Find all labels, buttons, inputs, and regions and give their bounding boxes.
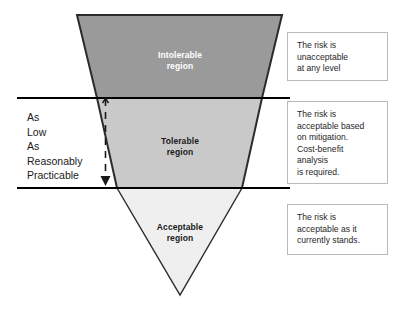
note-line: at any level <box>297 63 387 75</box>
alarp-word-as-1: As <box>27 110 107 125</box>
note-line: unacceptable <box>297 52 387 64</box>
tolerable-region-note: The risk is acceptable based on mitigati… <box>287 101 388 184</box>
note-line: acceptable as it <box>297 224 387 236</box>
note-line: acceptable based <box>297 121 387 133</box>
alarp-word-low: Low <box>27 125 107 140</box>
intolerable-region-label: Intolerable region <box>130 50 230 72</box>
acceptable-region-note: The risk is acceptable as it currently s… <box>287 204 388 255</box>
note-line: The risk is <box>297 109 387 121</box>
note-line: analysis <box>297 155 387 167</box>
risk-triangle-diagram: Intolerable region Tolerable region Acce… <box>0 0 395 315</box>
tolerable-region-label: Tolerable region <box>130 136 230 158</box>
note-line: The risk is <box>297 40 387 52</box>
note-line: Cost-benefit <box>297 144 387 156</box>
note-line: currently stands. <box>297 235 387 247</box>
alarp-word-list: As Low As Reasonably Practicable <box>27 110 107 183</box>
alarp-word-reasonably: Reasonably <box>27 154 107 169</box>
note-line: on mitigation. <box>297 132 387 144</box>
alarp-word-as-2: As <box>27 139 107 154</box>
note-line: The risk is <box>297 212 387 224</box>
alarp-word-practicable: Practicable <box>27 168 107 183</box>
intolerable-region-note: The risk is unacceptable at any level <box>287 32 388 81</box>
note-line: is required. <box>297 167 387 179</box>
acceptable-region-label: Acceptable region <box>130 222 230 244</box>
